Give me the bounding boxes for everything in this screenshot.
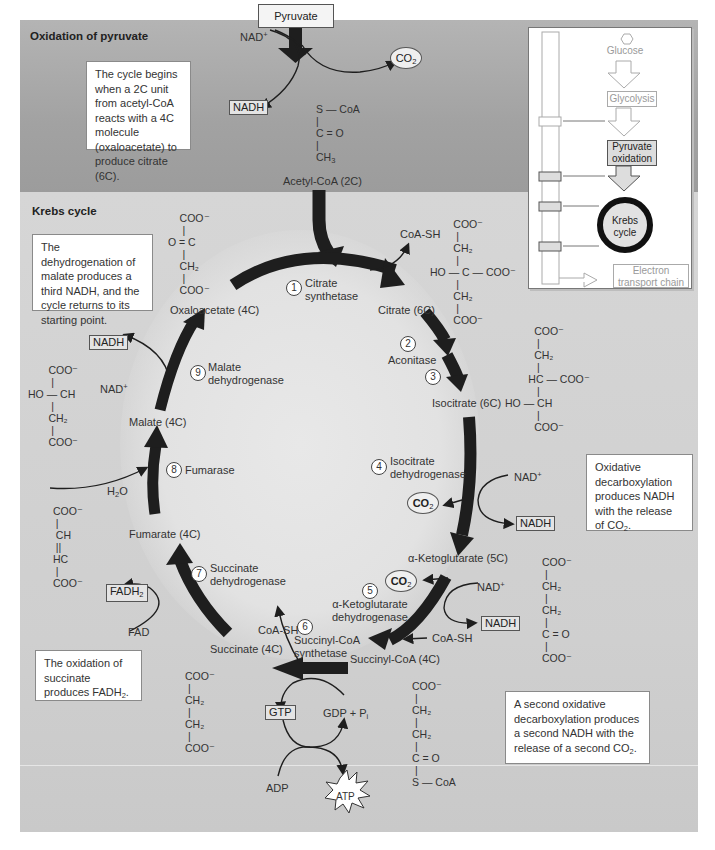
nad-plus-label-5: NAD+ xyxy=(477,578,505,594)
overview-glucose: Glucose xyxy=(595,45,655,57)
coa-sh-label-3: CoA-SH xyxy=(258,624,298,637)
enzyme-isocitrate-dehydrogenase: Isocitrate dehydrogenase xyxy=(390,455,466,481)
step-2-badge: 2 xyxy=(400,336,416,352)
structure-malate: COO⁻ | HO — CH | CH₂ | COO⁻ xyxy=(28,364,78,448)
enzyme-citrate-synthetase: Citrate synthetase xyxy=(305,277,358,303)
note-succinate-oxidation: The oxidation of succinate produces FADH… xyxy=(35,650,142,701)
nadh-box-4: NADH xyxy=(516,516,555,531)
structure-citrate: COO⁻ | CH₂ | HO — C — COO⁻ | CH₂ | COO⁻ xyxy=(430,218,516,326)
step-5-badge: 5 xyxy=(362,583,378,599)
structure-isocitrate: COO⁻ | CH₂ | HC — COO⁻ | HO — CH | COO⁻ xyxy=(505,325,590,433)
enzyme-ketoglutarate-dehydrogenase: α-Ketoglutarate dehydrogenase xyxy=(332,598,408,624)
pyruvate-box: Pyruvate xyxy=(258,4,334,28)
atp-starburst-label: ATP xyxy=(336,790,355,803)
enzyme-malate-dehydrogenase: Malate dehydrogenase xyxy=(208,361,284,387)
metabolite-citrate: Citrate (6C) xyxy=(378,304,435,317)
overview-pyruvate-oxidation: Pyruvate oxidation xyxy=(607,140,657,166)
acetyl-coa-structure: S — CoA | C = O | CH3 xyxy=(316,103,360,167)
step-7-badge: 7 xyxy=(191,566,207,582)
nadh-box: NADH xyxy=(229,100,268,115)
note-oxidative-decarboxylation: Oxidative decarboxylation produces NADH … xyxy=(586,454,693,531)
note-malate-dehydrogenation: The dehydrogenation of malate produces a… xyxy=(32,234,153,311)
overview-glycolysis: Glycolysis xyxy=(607,91,657,107)
structure-fumarate: COO⁻ | CH || HC | COO⁻ xyxy=(50,505,83,589)
co2-oval-5: CO2 xyxy=(385,570,417,592)
co2-oval-4: CO2 xyxy=(407,492,439,514)
krebs-cycle-diagram: Oxidation of pyruvate Krebs cycle The cy… xyxy=(0,0,715,850)
pathway-overview-inset: Glucose Glycolysis Pyruvate oxidation Kr… xyxy=(528,27,692,289)
nadh-box-5: NADH xyxy=(481,616,520,631)
section-title-oxidation: Oxidation of pyruvate xyxy=(30,30,148,42)
nad-plus-label-4: NAD+ xyxy=(514,468,542,484)
metabolite-oxaloacetate: Oxaloacetate (4C) xyxy=(170,304,259,317)
step-4-badge: 4 xyxy=(371,459,387,475)
enzyme-fumarase: Fumarase xyxy=(185,464,235,477)
fadh2-box: FADH2 xyxy=(106,584,148,602)
adp-label: ADP xyxy=(266,782,289,795)
coa-sh-label-2: CoA-SH xyxy=(432,632,472,645)
structure-ketoglutarate: COO⁻ | CH₂ | CH₂ | C = O | COO⁻ xyxy=(542,556,572,664)
fad-label: FAD xyxy=(128,626,149,639)
step-6-badge: 6 xyxy=(297,619,313,635)
note-cycle-begins: The cycle begins when a 2C unit from ace… xyxy=(86,61,191,150)
metabolite-malate: Malate (4C) xyxy=(129,416,186,429)
structure-succinate: COO⁻ | CH₂ | CH₂ | COO⁻ xyxy=(185,670,215,754)
step-3-badge: 3 xyxy=(425,369,441,385)
metabolite-succinate: Succinate (4C) xyxy=(210,643,283,656)
nad-plus-label: NAD+ xyxy=(240,28,268,44)
nad-plus-label-9: NAD+ xyxy=(100,380,128,396)
structure-succinyl-coa: COO⁻ | CH₂ | CH₂ | C = O | S — CoA xyxy=(412,680,456,788)
enzyme-succinate-dehydrogenase: Succinate dehydrogenase xyxy=(210,562,286,588)
acetyl-coa-label: Acetyl-CoA (2C) xyxy=(283,175,362,188)
co2-oval: CO2 xyxy=(390,47,422,69)
step-9-badge: 9 xyxy=(190,365,206,381)
structure-oxaloacetate: COO⁻ | O = C | CH₂ | COO⁻ xyxy=(165,212,210,296)
metabolite-isocitrate: Isocitrate (6C) xyxy=(432,397,501,410)
divider xyxy=(20,765,698,766)
section-title-krebs: Krebs cycle xyxy=(32,205,97,217)
enzyme-aconitase: Aconitase xyxy=(388,354,436,367)
metabolite-ketoglutarate: α-Ketoglutarate (5C) xyxy=(408,552,508,565)
metabolite-succinyl-coa: Succinyl-CoA (4C) xyxy=(350,653,440,666)
metabolite-fumarate: Fumarate (4C) xyxy=(129,528,201,541)
enzyme-succinyl-coa-synthetase: Succinyl-CoA synthetase xyxy=(294,634,360,660)
gtp-box: GTP xyxy=(265,705,296,720)
step-8-badge: 8 xyxy=(166,462,182,478)
nadh-box-9: NADH xyxy=(89,335,128,350)
step-1-badge: 1 xyxy=(286,280,302,296)
overview-electron-transport-chain: Electron transport chain xyxy=(613,264,689,288)
gdp-pi-label: GDP + Pi xyxy=(323,707,368,723)
h2o-label: H2O xyxy=(107,485,128,501)
overview-krebs-cycle: Krebs cycle xyxy=(607,215,643,238)
note-second-oxidative-decarboxylation: A second oxidative decarboxylation produ… xyxy=(505,691,650,764)
